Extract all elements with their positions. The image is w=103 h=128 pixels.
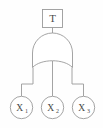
basic-event-subscript-2: 2 [56, 108, 59, 114]
fault-tree-diagram: T X 1 X 2 X 3 [0, 0, 103, 128]
basic-event-label-1: X [16, 103, 23, 113]
top-event-label: T [49, 12, 56, 24]
basic-event-subscript-1: 1 [25, 108, 28, 114]
connector-gate-to-right-event [72, 68, 84, 97]
connector-gate-to-left-event [22, 68, 34, 97]
basic-event-label-2: X [47, 103, 54, 113]
basic-event-subscript-3: 3 [87, 108, 90, 114]
basic-event-label-3: X [78, 103, 85, 113]
